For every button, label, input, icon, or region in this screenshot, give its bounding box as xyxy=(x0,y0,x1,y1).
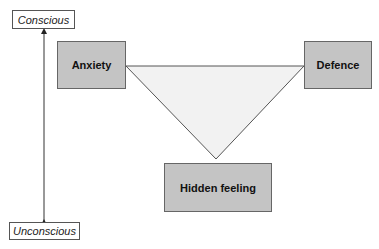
conscious-label: Conscious xyxy=(12,10,75,29)
hidden-feeling-node: Hidden feeling xyxy=(164,163,272,212)
triangle-shape xyxy=(126,66,304,159)
anxiety-node: Anxiety xyxy=(57,41,126,89)
unconscious-label: Unconscious xyxy=(9,222,80,240)
defence-node: Defence xyxy=(304,41,372,89)
